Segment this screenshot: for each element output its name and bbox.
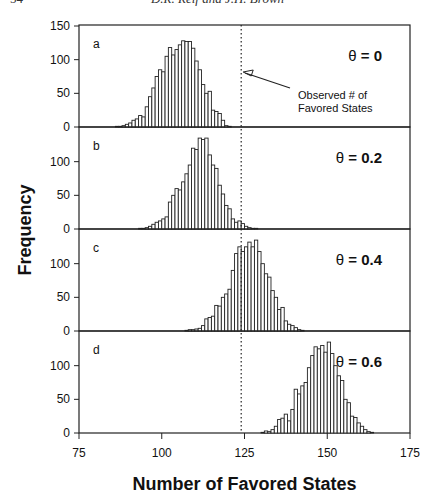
histogram-bar — [172, 195, 175, 229]
histogram-bar — [357, 423, 360, 433]
histogram-bar — [201, 139, 204, 229]
histogram-bar — [221, 120, 224, 127]
axes: 75100125150175 — [72, 25, 420, 460]
histogram-bar — [288, 421, 291, 433]
histogram-bar — [158, 221, 161, 229]
histogram-bar — [340, 380, 343, 433]
y-tick-label: 0 — [63, 222, 70, 236]
histogram-bar — [205, 138, 208, 229]
histogram-bar — [261, 264, 264, 331]
y-tick-label: 150 — [50, 19, 70, 33]
histogram-bar — [281, 418, 284, 433]
histogram-bar — [188, 41, 191, 127]
histogram-bar — [205, 319, 208, 331]
y-tick-label: 100 — [50, 53, 70, 67]
histogram-bar — [254, 240, 257, 331]
x-axis-title: Number of Favored States — [132, 474, 356, 494]
histogram-bar — [241, 252, 244, 331]
histogram-bar — [271, 430, 274, 433]
histogram-bar — [350, 416, 353, 433]
histogram-bar — [188, 165, 191, 229]
histogram-bar — [288, 324, 291, 331]
histogram-bar — [264, 431, 267, 433]
histogram-bar — [218, 114, 221, 127]
histogram-bar — [152, 88, 155, 127]
histogram-bar — [162, 219, 165, 229]
y-tick-label: 100 — [50, 155, 70, 169]
histogram-bar — [211, 316, 214, 331]
histogram-bar — [278, 309, 281, 331]
histogram-bar — [307, 368, 310, 433]
histogram-bar — [324, 352, 327, 433]
histogram-bar — [168, 202, 171, 229]
histogram-bar — [198, 70, 201, 127]
histogram-bar — [225, 205, 228, 229]
histogram-bar — [195, 150, 198, 229]
y-tick-label: 0 — [63, 426, 70, 440]
y-tick-label: 50 — [57, 86, 71, 100]
histogram-bar — [129, 123, 132, 127]
x-tick-label: 175 — [400, 446, 420, 460]
histogram-bar — [211, 165, 214, 229]
histogram-bar — [185, 174, 188, 229]
histogram-bar — [175, 189, 178, 229]
histogram-bar — [344, 399, 347, 433]
histogram-bar — [301, 386, 304, 433]
histogram-bar — [245, 247, 248, 331]
histogram-bar — [281, 307, 284, 331]
histogram-bar — [268, 277, 271, 331]
histogram-bar — [178, 45, 181, 127]
histogram-bar — [251, 247, 254, 331]
theta-label: θ = 0 — [348, 47, 382, 64]
x-tick-label: 75 — [72, 446, 86, 460]
x-tick-label: 150 — [317, 446, 337, 460]
panel-letter: d — [93, 343, 100, 357]
y-tick-label: 50 — [57, 290, 71, 304]
histogram-bar — [347, 403, 350, 433]
panel-letter: c — [93, 241, 99, 255]
histogram-bar — [264, 274, 267, 331]
histogram-bar — [201, 85, 204, 127]
histogram-bar — [175, 50, 178, 127]
histogram-bar — [370, 432, 373, 433]
histogram-bar — [132, 120, 135, 127]
histogram-bar — [360, 426, 363, 433]
y-tick-label: 100 — [50, 359, 70, 373]
histogram-bar — [304, 383, 307, 434]
histogram-bar — [317, 349, 320, 433]
panel-c: 050100cθ = 0.4 — [50, 229, 410, 338]
histogram-bar — [235, 222, 238, 229]
histogram-bar — [168, 48, 171, 127]
histogram-bar — [271, 291, 274, 331]
histogram-bar — [182, 182, 185, 229]
y-tick-label: 0 — [63, 120, 70, 134]
panel-frame — [79, 127, 410, 229]
histogram-bar — [162, 72, 165, 127]
histogram-bar — [235, 254, 238, 331]
histogram-bar — [215, 112, 218, 127]
histogram-bar — [334, 366, 337, 433]
histogram-bar — [172, 55, 175, 127]
histogram-bar — [152, 224, 155, 229]
histogram-bar — [321, 345, 324, 433]
histogram-bar — [367, 432, 370, 433]
histogram-bar — [331, 354, 334, 433]
histogram-bar — [165, 56, 168, 127]
histogram-bar — [205, 93, 208, 127]
panel-frame — [79, 331, 410, 433]
histogram-bar — [145, 107, 148, 127]
histogram-bar — [185, 41, 188, 127]
annotation-line-1: Observed # of — [298, 89, 368, 101]
histogram-bar — [155, 77, 158, 128]
histogram-bar — [337, 376, 340, 433]
histogram-bar — [211, 110, 214, 127]
histogram-bar — [221, 297, 224, 331]
histogram-bar — [354, 418, 357, 433]
panels: 050100150aθ = 0050100bθ = 0.2050100cθ = … — [50, 19, 410, 440]
histogram-bar — [165, 217, 168, 229]
x-tick-label: 100 — [152, 446, 172, 460]
histogram-bar — [182, 41, 185, 127]
theta-label: θ = 0.6 — [336, 353, 382, 370]
histogram-bar — [268, 432, 271, 433]
histogram-bar — [149, 97, 152, 127]
